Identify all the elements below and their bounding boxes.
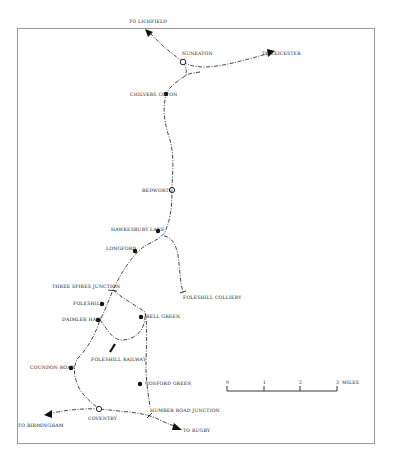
scale-tick-3: 3 (336, 380, 339, 385)
station-nuneaton-marker (180, 59, 186, 65)
label-three-spires-junction: THREE SPIRES JUNCTION (52, 284, 120, 289)
label-coventry: COVENTRY (88, 416, 118, 421)
scale-tick-2: 2 (299, 380, 302, 385)
line-colliery-branch (164, 236, 183, 292)
label-bell-green: BELL GREEN (146, 314, 180, 319)
line-to-lichfield (150, 33, 183, 62)
label-foleshill-railway: FOLESHILL RAILWAY (91, 357, 147, 362)
label-to-leicester: TO LEICESTER (262, 51, 301, 56)
arrow-to-birmingham (44, 410, 52, 418)
scale-tick-1: 1 (263, 380, 266, 385)
label-to-rugby: TO RUGBY (183, 428, 211, 433)
foleshill-railway-marker (110, 344, 115, 352)
label-gosford-green: GOSFORD GREEN (145, 381, 192, 386)
label-bedworth: BEDWORTH (142, 188, 173, 193)
label-nuneaton: NUNEATON (182, 51, 213, 56)
station-bell-green-marker (139, 315, 143, 319)
label-to-lichfield: TO LICHFIELD (129, 19, 167, 24)
label-daimler-halt: DAIMLER HALT (62, 317, 103, 322)
line-to-birmingham (48, 409, 100, 414)
railway-map: TO LICHFIELD TO LEICESTER TO BIRMINGHAM … (0, 0, 393, 461)
label-hawkesbury-lane: HAWKESBURY LANE (111, 227, 165, 232)
label-to-birmingham: TO BIRMINGHAM (18, 423, 64, 428)
station-gosford-green-marker (138, 382, 142, 386)
line-triangle-west (185, 72, 200, 76)
arrow-to-rugby (172, 423, 182, 430)
label-humber-road-junction: HUMBER ROAD JUNCTION (150, 408, 220, 413)
label-foleshill-colliery: FOLESHILL COLLIERY (183, 295, 242, 300)
arrow-to-lichfield (145, 29, 153, 37)
line-daimler-loop (100, 314, 145, 340)
label-coundon-road: COUNDON ROAD (30, 365, 75, 370)
scale-bar: 0 1 2 3 MILES (226, 380, 359, 391)
three-spires-junction-tick (108, 290, 117, 291)
scale-tick-0: 0 (226, 380, 229, 385)
line-bell-green (113, 290, 150, 407)
label-chilvers-coton: CHILVERS COTON (130, 92, 178, 97)
station-coventry-marker (96, 406, 101, 411)
label-longford: LONGFORD (106, 246, 136, 251)
scale-unit: MILES (342, 380, 359, 385)
label-foleshill: FOLESHILL (73, 301, 103, 306)
